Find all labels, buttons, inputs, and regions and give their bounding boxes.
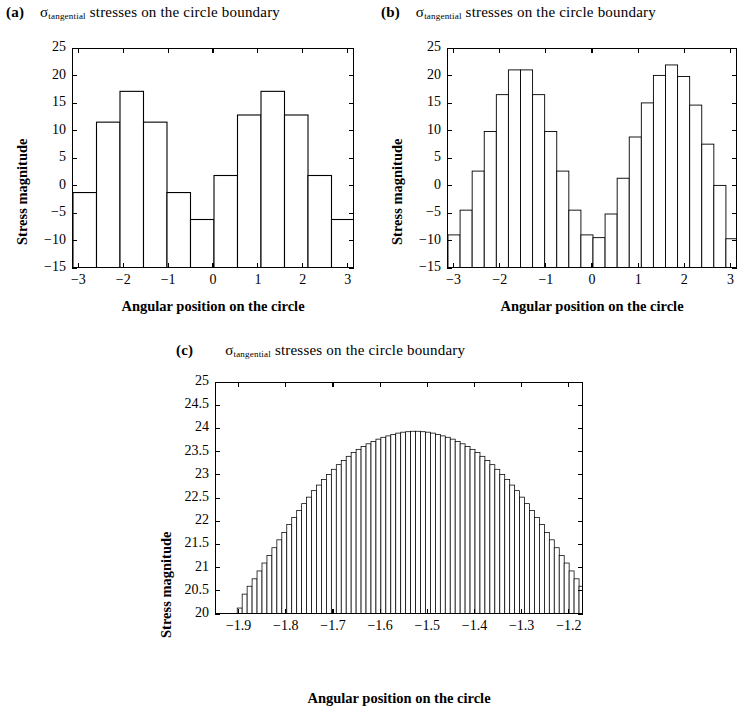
bar xyxy=(465,447,470,614)
bar xyxy=(505,480,510,614)
x-tick-mark xyxy=(347,48,348,53)
bar xyxy=(386,436,391,614)
y-tick-label: −10 xyxy=(393,232,441,248)
bar xyxy=(312,491,317,614)
bar xyxy=(460,210,472,268)
x-tick-label: −1.2 xyxy=(544,618,594,634)
bar xyxy=(316,485,321,614)
bar xyxy=(287,525,292,614)
y-tick-label: 25 xyxy=(393,39,441,55)
x-tick-label: −1.7 xyxy=(308,618,358,634)
bar xyxy=(341,460,346,614)
x-tick-label: 0 xyxy=(567,272,617,288)
y-tick-mark xyxy=(215,428,220,429)
bar xyxy=(416,431,421,614)
x-tick-label: 1 xyxy=(233,272,283,288)
bar xyxy=(292,518,297,614)
bar xyxy=(484,132,496,269)
bar xyxy=(520,497,525,614)
y-tick-mark xyxy=(349,48,354,49)
panel-c-axes xyxy=(215,382,583,614)
x-tick-mark xyxy=(499,48,500,53)
bar xyxy=(545,132,557,269)
y-tick-mark xyxy=(349,130,354,131)
bar xyxy=(440,436,445,614)
bar xyxy=(510,485,515,614)
x-tick-mark xyxy=(332,382,333,387)
y-tick-mark xyxy=(215,382,220,383)
x-tick-mark xyxy=(78,263,79,268)
bar xyxy=(297,511,302,614)
y-tick-label: 20 xyxy=(18,67,66,83)
bar xyxy=(435,435,440,614)
panel-b-title-text: stresses on the circle boundary xyxy=(466,4,656,20)
y-tick-mark xyxy=(72,48,77,49)
x-tick-mark xyxy=(591,48,592,53)
bar xyxy=(450,439,455,614)
y-tick-mark xyxy=(215,405,220,406)
y-tick-mark xyxy=(447,48,452,49)
bar xyxy=(73,193,97,268)
y-tick-mark xyxy=(447,185,452,186)
bar xyxy=(120,91,144,268)
x-tick-label: −3 xyxy=(53,272,103,288)
bar xyxy=(331,469,336,614)
y-tick-mark xyxy=(72,185,77,186)
y-tick-mark xyxy=(72,268,77,269)
x-tick-mark xyxy=(638,263,639,268)
panel-c-letter: (c) xyxy=(176,342,193,358)
bar xyxy=(690,105,702,268)
y-tick-mark xyxy=(72,103,77,104)
x-tick-mark xyxy=(332,609,333,614)
x-tick-mark xyxy=(638,48,639,53)
x-tick-label: −2 xyxy=(475,272,525,288)
x-tick-mark xyxy=(427,609,428,614)
x-tick-mark xyxy=(545,263,546,268)
x-tick-mark xyxy=(474,609,475,614)
x-tick-label: −1 xyxy=(521,272,571,288)
y-tick-mark xyxy=(732,185,737,186)
bar xyxy=(308,176,332,269)
bar xyxy=(641,103,653,268)
bar xyxy=(629,137,641,268)
bar xyxy=(533,95,545,268)
x-tick-label: −1.6 xyxy=(355,618,405,634)
bar xyxy=(678,77,690,269)
bar xyxy=(396,433,401,614)
bar xyxy=(554,548,559,614)
bar xyxy=(653,75,665,268)
bar xyxy=(371,441,376,614)
y-tick-mark xyxy=(447,158,452,159)
bar xyxy=(445,437,450,614)
y-tick-mark xyxy=(578,521,583,522)
sigma-symbol-b: σ xyxy=(416,4,424,20)
sigma-subscript-b: tangential xyxy=(424,11,462,21)
bar xyxy=(282,532,287,614)
x-tick-mark xyxy=(238,382,239,387)
bar xyxy=(500,474,505,614)
bar xyxy=(411,431,416,614)
bar xyxy=(247,586,252,614)
x-tick-mark xyxy=(521,382,522,387)
bar xyxy=(356,449,361,614)
bar xyxy=(508,70,520,268)
bar xyxy=(167,193,191,268)
bar xyxy=(366,444,371,614)
y-tick-mark xyxy=(447,130,452,131)
bar xyxy=(401,432,406,614)
x-tick-label: 2 xyxy=(278,272,328,288)
sigma-subscript-a: tangential xyxy=(48,11,86,21)
x-tick-label: 1 xyxy=(613,272,663,288)
bar xyxy=(470,449,475,614)
y-tick-mark xyxy=(447,213,452,214)
x-tick-mark xyxy=(591,263,592,268)
bar xyxy=(480,456,485,614)
x-tick-mark xyxy=(684,263,685,268)
x-tick-label: −1.9 xyxy=(214,618,264,634)
panel-b-axes xyxy=(447,48,737,268)
bar xyxy=(381,437,386,614)
x-tick-mark xyxy=(257,48,258,53)
x-tick-mark xyxy=(168,263,169,268)
x-tick-mark xyxy=(212,48,213,53)
bar xyxy=(557,171,569,268)
